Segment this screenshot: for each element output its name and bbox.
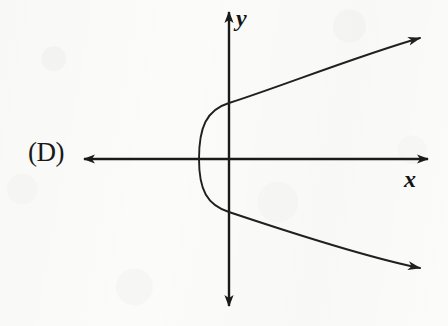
x-axis-label: x: [404, 167, 416, 191]
coordinate-plane-figure: [0, 0, 448, 326]
figure-canvas: (D) y x: [0, 0, 448, 326]
parabola-upper-branch: [199, 38, 420, 159]
y-axis-label: y: [236, 6, 247, 30]
choice-label-d: (D): [28, 139, 64, 166]
parabola-lower-branch: [199, 159, 420, 268]
